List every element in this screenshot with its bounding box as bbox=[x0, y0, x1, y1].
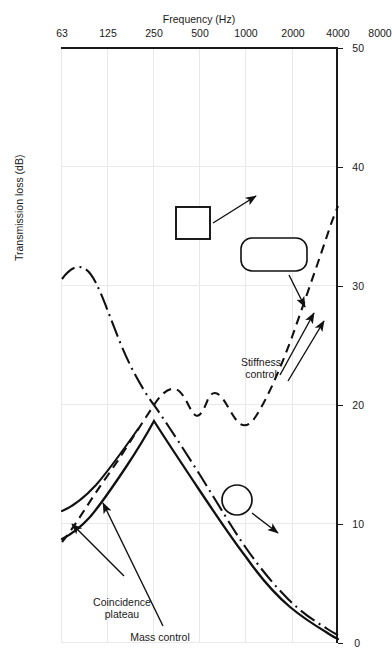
y-tick-10 bbox=[338, 524, 343, 525]
x-tick-label-125: 125 bbox=[99, 27, 117, 39]
y-tick-label-50: 50 bbox=[352, 42, 364, 54]
plot-area: Coincidence plateau Mass control Stiffne… bbox=[61, 47, 338, 643]
annotation-mass-control: Mass control bbox=[106, 631, 214, 643]
y-tick-0 bbox=[338, 643, 343, 644]
annotation-coincidence-plateau: Coincidence plateau bbox=[74, 596, 170, 621]
y-tick-40 bbox=[338, 167, 343, 168]
x-tick-label-1000: 1000 bbox=[234, 27, 257, 39]
y-tick-label-40: 40 bbox=[352, 161, 364, 173]
callout-square-text bbox=[176, 207, 210, 239]
y-tick-label-30: 30 bbox=[352, 280, 364, 292]
leader-callout-circle bbox=[252, 513, 278, 533]
leader-callout-rounded bbox=[289, 275, 305, 307]
x-tick-label-250: 250 bbox=[145, 27, 163, 39]
y-axis-title: Transmission loss (dB) bbox=[13, 155, 25, 261]
curves-svg bbox=[61, 47, 338, 643]
x-tick-label-2000: 2000 bbox=[281, 27, 304, 39]
y-tick-label-0: 0 bbox=[354, 637, 360, 649]
leader-callout-square bbox=[213, 196, 256, 223]
callout-circle-text bbox=[222, 492, 252, 508]
x-axis-title: Frequency (Hz) bbox=[163, 13, 235, 25]
x-tick-label-8000: 8000 bbox=[368, 27, 391, 39]
y-tick-20 bbox=[338, 405, 343, 406]
callout-rounded-rect-text bbox=[241, 238, 307, 271]
y-tick-30 bbox=[338, 286, 343, 287]
curve-solid-plateau-branch bbox=[62, 429, 138, 511]
y-tick-label-20: 20 bbox=[352, 399, 364, 411]
leader-coincidence-plateau bbox=[72, 524, 124, 576]
y-tick-label-10: 10 bbox=[352, 518, 364, 530]
annotation-stiffness-control: Stiffness control bbox=[230, 356, 292, 381]
x-tick-label-500: 500 bbox=[191, 27, 209, 39]
x-tick-label-63: 63 bbox=[56, 27, 68, 39]
x-tick-label-4000: 4000 bbox=[326, 27, 349, 39]
y-tick-50 bbox=[338, 48, 343, 49]
